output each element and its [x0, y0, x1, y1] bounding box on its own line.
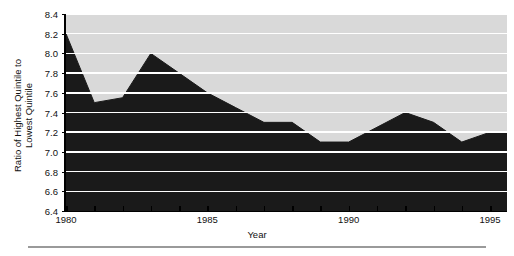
gridline — [66, 92, 507, 94]
x-tick-mark — [377, 206, 379, 212]
gridline — [66, 33, 507, 35]
x-tick-mark — [94, 206, 96, 212]
y-tick-label: 7.4 — [45, 107, 58, 118]
x-tick-mark — [320, 206, 322, 212]
gridline — [66, 112, 507, 114]
y-tick-label: 8.4 — [45, 9, 58, 20]
gridline — [66, 14, 507, 15]
y-axis-tick-labels: 6.46.66.87.07.27.47.67.88.08.28.4 — [30, 8, 62, 214]
y-tick-label: 6.8 — [45, 166, 58, 177]
x-tick-mark — [462, 206, 464, 212]
gridline — [66, 151, 507, 153]
y-tick-label: 7.0 — [45, 146, 58, 157]
y-tick-label: 7.6 — [45, 87, 58, 98]
x-tick-mark — [66, 206, 68, 212]
y-axis-title-line1: Ratio of Highest Quintile to — [12, 59, 23, 172]
x-tick-mark — [292, 206, 294, 212]
gridline — [66, 131, 507, 133]
gridline — [66, 191, 507, 193]
x-tick-mark — [151, 206, 153, 212]
plot-area — [66, 14, 507, 211]
x-tick-label: 1990 — [338, 214, 359, 225]
x-tick-mark — [405, 206, 407, 212]
y-tick-label: 7.8 — [45, 68, 58, 79]
x-tick-mark — [123, 206, 125, 212]
gridline — [66, 171, 507, 173]
y-tick-label: 6.6 — [45, 186, 58, 197]
x-tick-label: 1985 — [197, 214, 218, 225]
y-tick-label: 8.2 — [45, 28, 58, 39]
x-axis-title: Year — [0, 229, 514, 240]
footer-divider — [28, 246, 486, 248]
gridline — [66, 53, 507, 55]
x-tick-mark — [434, 206, 436, 212]
x-tick-label: 1980 — [55, 214, 76, 225]
x-tick-mark — [207, 206, 209, 212]
x-tick-label: 1995 — [479, 214, 500, 225]
x-tick-mark — [236, 206, 238, 212]
y-tick-label: 8.0 — [45, 48, 58, 59]
gridline — [66, 72, 507, 74]
x-tick-mark — [349, 206, 351, 212]
x-tick-mark — [179, 206, 181, 212]
area-path — [66, 34, 507, 211]
x-tick-mark — [264, 206, 266, 212]
y-tick-label: 7.2 — [45, 127, 58, 138]
x-tick-mark — [490, 206, 492, 212]
chart-figure: Ratio of Highest Quintile to Lowest Quin… — [0, 0, 514, 256]
